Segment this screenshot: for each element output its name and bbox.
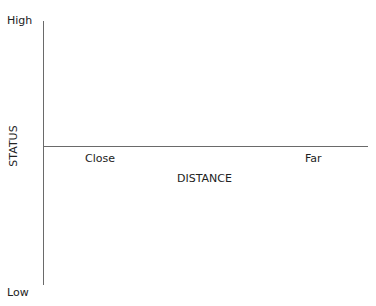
x-axis-line xyxy=(43,146,368,147)
y-axis-high-label: High xyxy=(7,14,32,27)
x-axis-far-label: Far xyxy=(305,152,322,165)
y-axis-low-label: Low xyxy=(7,286,29,299)
x-axis-close-label: Close xyxy=(85,152,115,165)
y-axis-title: STATUS xyxy=(7,125,20,166)
y-axis-line xyxy=(43,21,44,285)
x-axis-title: DISTANCE xyxy=(177,172,232,185)
